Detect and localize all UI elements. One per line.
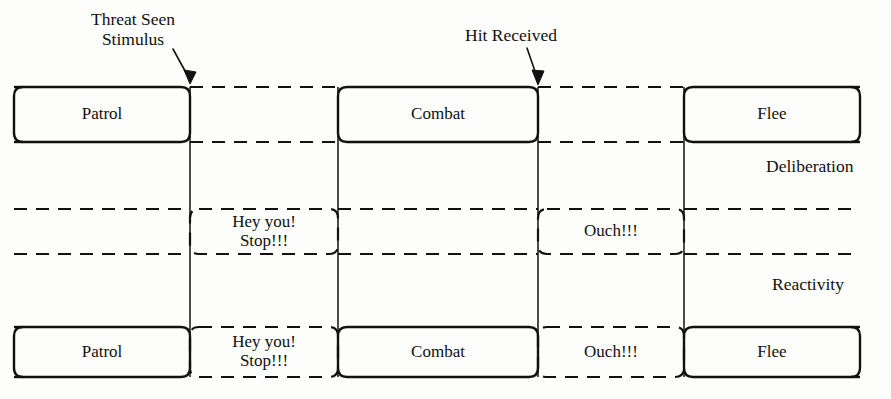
state-label-combat-combined: Combat (338, 327, 538, 377)
state-label-ouch: Ouch!!! (538, 209, 684, 254)
state-label-combat: Combat (338, 87, 538, 142)
arrow-head-hit-received (532, 70, 544, 85)
annotation-threat-seen-stimulus: Threat Seen Stimulus (74, 10, 192, 49)
band-label-reactivity: Reactivity (772, 275, 844, 295)
diagram-canvas: Threat Seen Stimulus Hit Received Delibe… (0, 0, 891, 399)
arrow-head-threat-seen-stimulus (184, 70, 196, 84)
state-label-flee-combined: Flee (684, 327, 860, 377)
band-label-deliberation: Deliberation (766, 157, 853, 177)
state-label-patrol-combined: Patrol (14, 327, 190, 377)
annotation-hit-received: Hit Received (452, 26, 570, 46)
state-label-hey-you-stop-combined: Hey you! Stop!!! (190, 327, 338, 377)
state-label-flee: Flee (684, 87, 860, 142)
state-label-patrol: Patrol (14, 87, 190, 142)
state-label-ouch-combined: Ouch!!! (538, 327, 684, 377)
state-label-hey-you-stop: Hey you! Stop!!! (190, 209, 338, 254)
